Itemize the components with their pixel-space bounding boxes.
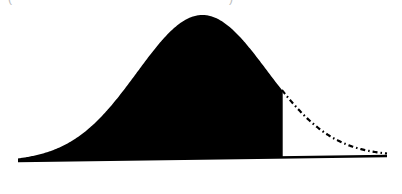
normal-distribution-chart [0,0,402,194]
unshaded-right-tail-curve [282,90,387,153]
shaded-area-left-of-cutoff [18,15,282,161]
